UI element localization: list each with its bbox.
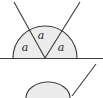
angle-label-right: a — [58, 41, 65, 54]
lower-figure-group — [26, 64, 96, 98]
angle-label-left: a — [22, 41, 29, 54]
angle-diagram-figure: a a a — [0, 0, 103, 98]
lower-arc-fill — [26, 82, 70, 98]
diagram-canvas: a a a — [0, 0, 103, 98]
top-figure-group: a a a — [0, 2, 103, 59]
angle-label-middle: a — [38, 29, 45, 42]
lower-ray — [72, 64, 96, 96]
